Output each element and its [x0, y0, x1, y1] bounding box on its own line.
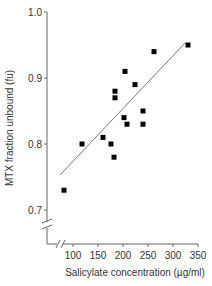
- data-point: [122, 115, 127, 120]
- regression-line: [60, 43, 185, 175]
- x-axis-label: Salicylate concentration (µg/ml): [65, 267, 205, 278]
- y-tick-label: 0.8: [28, 139, 42, 150]
- y-axis: 0.70.80.91.0: [28, 7, 52, 245]
- data-point: [112, 155, 117, 160]
- data-point: [113, 89, 118, 94]
- data-point: [152, 49, 157, 54]
- data-point: [113, 95, 118, 100]
- data-point: [141, 109, 146, 114]
- data-point: [80, 142, 85, 147]
- data-point: [141, 122, 146, 127]
- scatter-chart: 0.70.80.91.0 100150200250300350 MTX frac…: [0, 0, 212, 286]
- y-axis-label: MTX fraction unbound (fu): [4, 70, 15, 186]
- plot-area: [60, 43, 191, 193]
- x-tick-label: 350: [190, 250, 207, 261]
- data-point: [101, 135, 106, 140]
- data-point: [125, 122, 130, 127]
- y-tick-label: 0.9: [28, 73, 42, 84]
- x-tick-label: 250: [140, 250, 157, 261]
- data-point: [133, 82, 138, 87]
- y-tick-label: 1.0: [28, 7, 42, 18]
- x-tick-label: 150: [90, 250, 107, 261]
- x-axis: 100150200250300350: [47, 240, 207, 261]
- data-point: [186, 43, 191, 48]
- data-point: [109, 142, 114, 147]
- data-point: [123, 69, 128, 74]
- x-tick-label: 200: [115, 250, 132, 261]
- y-tick-label: 0.7: [28, 205, 42, 216]
- x-tick-label: 300: [165, 250, 182, 261]
- x-tick-label: 100: [65, 250, 82, 261]
- data-point: [62, 188, 67, 193]
